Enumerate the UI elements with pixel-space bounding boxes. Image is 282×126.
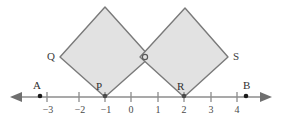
tick-label-minus3: −3 [39, 105, 57, 115]
vertex-label-P: P [96, 81, 102, 92]
point-A-dot [38, 94, 43, 99]
vertex-label-S: S [233, 51, 239, 62]
tick-label-four: 4 [231, 105, 243, 115]
point-B-dot [244, 94, 249, 99]
axis-right-arrowhead [260, 92, 272, 102]
tick-label-one: 1 [152, 105, 164, 115]
vertex-label-Q: Q [47, 51, 55, 62]
point-R-dot [182, 94, 187, 99]
tick-label-three: 3 [205, 105, 217, 115]
squares-intersection-point [142, 54, 147, 59]
vertex-label-R: R [177, 81, 184, 92]
tick-label-minus2: −2 [71, 105, 89, 115]
left-square-shape [60, 7, 150, 97]
point-label-A: A [33, 80, 41, 91]
point-P-dot [103, 94, 108, 99]
tick-label-two: 2 [178, 105, 190, 115]
tick-label-minus1: −1 [97, 105, 115, 115]
point-label-B: B [243, 80, 250, 91]
tick-label-zero: 0 [125, 105, 137, 115]
math-figure-number-line-squares: Q S P R A B −3 −2 −1 0 1 2 3 4 [0, 0, 282, 126]
axis-left-arrowhead [10, 92, 22, 102]
